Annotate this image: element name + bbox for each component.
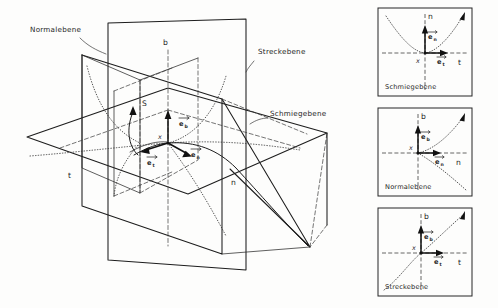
vector-label-e-t-base: e: [147, 159, 152, 167]
projection-curve-normalebene: [87, 66, 140, 196]
main-diagram-group: Normalebene Streckebene Schmiegebene b t…: [27, 19, 327, 270]
panel2-curve-arrowhead: [460, 113, 466, 122]
axis-label-n: n: [231, 178, 236, 187]
label-streckebene-main: Streckebene: [258, 47, 306, 56]
panel-normalebene: b n x e b e n Normalebene: [378, 108, 472, 196]
panel1-caption: Schmiegebene: [385, 83, 436, 91]
figure-canvas: Normalebene Streckebene Schmiegebene b t…: [0, 0, 498, 308]
panel3-vector-right: [421, 250, 444, 256]
panel3-vertical-axis-label: b: [424, 212, 429, 221]
panel1-horizontal-axis-label: t: [458, 58, 461, 67]
panel3-horizontal-axis-label: t: [458, 258, 461, 267]
panel1-vector-up-base: e: [428, 33, 433, 41]
panel2-vector-right-sub: n: [441, 162, 444, 167]
vector-label-e-t: e t: [147, 156, 157, 169]
point-label-x: x: [157, 133, 162, 141]
panel3-origin-label: x: [411, 244, 416, 252]
panel1-vector-right: [425, 50, 448, 56]
panel3-vector-up-base: e: [424, 233, 429, 241]
vector-e-b: [165, 110, 172, 141]
panel3-vector-right-base: e: [434, 258, 439, 266]
panel2-vector-up-base: e: [421, 133, 426, 141]
vector-e-t: [140, 143, 168, 154]
panel-streckebene: b t x e b e t Streckebene: [378, 208, 472, 296]
panel3-vector-up-sub: b: [430, 237, 434, 242]
panel2-origin-label: x: [408, 144, 413, 152]
panel1-origin-dot: [423, 51, 426, 54]
panel2-origin-dot: [416, 151, 419, 154]
space-curve: [134, 143, 308, 246]
panel2-vector-right-label: e n: [435, 156, 444, 167]
hand-drawn-frenet-frame-figure: Normalebene Streckebene Schmiegebene b t…: [0, 0, 498, 308]
panel1-vertical-axis-label: n: [428, 12, 433, 21]
vector-e-n: [168, 143, 192, 157]
panel2-horizontal-axis-label: n: [456, 158, 461, 167]
panel2-caption: Normalebene: [385, 183, 432, 191]
origin-point-marker: [167, 142, 170, 145]
panel2-vector-up-label: e b: [421, 131, 431, 142]
panel3-vector-up-label: e b: [424, 231, 434, 242]
panel2-vector-up-sub: b: [427, 137, 431, 142]
panel1-curve-arrowhead: [460, 12, 466, 21]
vector-label-e-b-sub: b: [185, 124, 189, 129]
panel1-vector-up-label: e n: [428, 31, 437, 42]
vector-label-e-b-base: e: [179, 120, 184, 128]
axis-label-b: b: [163, 38, 168, 47]
vector-label-e-n-sub: n: [197, 155, 200, 160]
vector-label-e-b: e b: [179, 117, 189, 130]
panel3-origin-dot: [419, 251, 422, 254]
panel1-vector-right-sub: t: [443, 62, 446, 67]
panel1-origin-label: x: [415, 57, 420, 65]
panel1-vector-up-sub: n: [434, 37, 437, 42]
panel3-curve: [384, 214, 464, 290]
point-label-s: S: [142, 99, 147, 108]
panel3-curve-arrowhead: [460, 211, 465, 220]
panel1-vector-right-label: e t: [437, 56, 446, 67]
vector-label-e-n-base: e: [191, 151, 196, 159]
vector-label-e-t-sub: t: [153, 163, 156, 168]
panel-schmiegebene: n t x e n e t Schmiegebene: [378, 8, 472, 96]
panel1-vector-right-base: e: [437, 58, 442, 66]
vector-label-e-n: e n: [191, 148, 201, 161]
panel2-vector-right-base: e: [435, 158, 440, 166]
vertical-plane-normalebene: [108, 19, 246, 270]
label-normalebene-main: Normalebene: [30, 25, 81, 34]
panel2-vertical-axis-label: b: [421, 112, 426, 121]
panel3-vector-right-label: e t: [434, 256, 443, 267]
panel2-vector-right: [418, 150, 441, 156]
label-schmiegebene-main: Schmiegebene: [270, 109, 327, 118]
horizontal-plane-schmiegebene: [27, 88, 327, 194]
panel3-caption: Streckebene: [385, 283, 428, 291]
arc-arrow-s: [129, 106, 138, 155]
panel3-vector-right-sub: t: [440, 262, 443, 267]
axis-label-t: t: [68, 171, 71, 180]
